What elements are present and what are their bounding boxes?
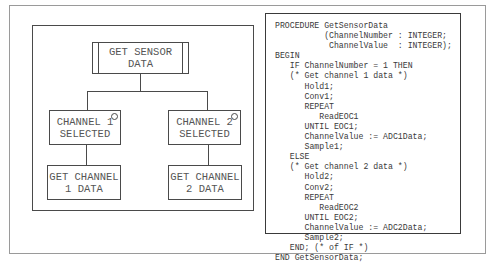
selection-circle-icon [111,113,118,120]
condition-label: CHANNEL 2 SELECTED [176,116,233,140]
action-label: GET CHANNEL 2 DATA [170,171,239,195]
get-sensor-data-module: GET SENSOR DATA [92,42,189,74]
action-label: GET CHANNEL 1 DATA [49,171,118,195]
connector-right-action [208,145,209,165]
get-channel-1-data-box: GET CHANNEL 1 DATA [47,165,121,200]
channel-1-selected-box: CHANNEL 1 SELECTED [49,110,121,145]
module-right-bar [182,43,183,73]
module-left-bar [98,43,99,73]
connector-root-down [140,73,141,91]
condition-label: CHANNEL 1 SELECTED [57,116,114,140]
channel-2-selected-box: CHANNEL 2 SELECTED [168,110,241,145]
module-label: GET SENSOR DATA [109,46,172,70]
code-text: PROCEDURE GetSensorData (ChannelNumber :… [275,21,452,263]
connector-left-action [86,145,87,165]
get-channel-2-data-box: GET CHANNEL 2 DATA [168,165,242,200]
code-listing: PROCEDURE GetSensorData (ChannelNumber :… [265,13,461,234]
connector-left-down [87,91,88,110]
connector-horizontal [87,91,208,92]
selection-circle-icon [231,113,238,120]
connector-right-down [207,91,208,110]
